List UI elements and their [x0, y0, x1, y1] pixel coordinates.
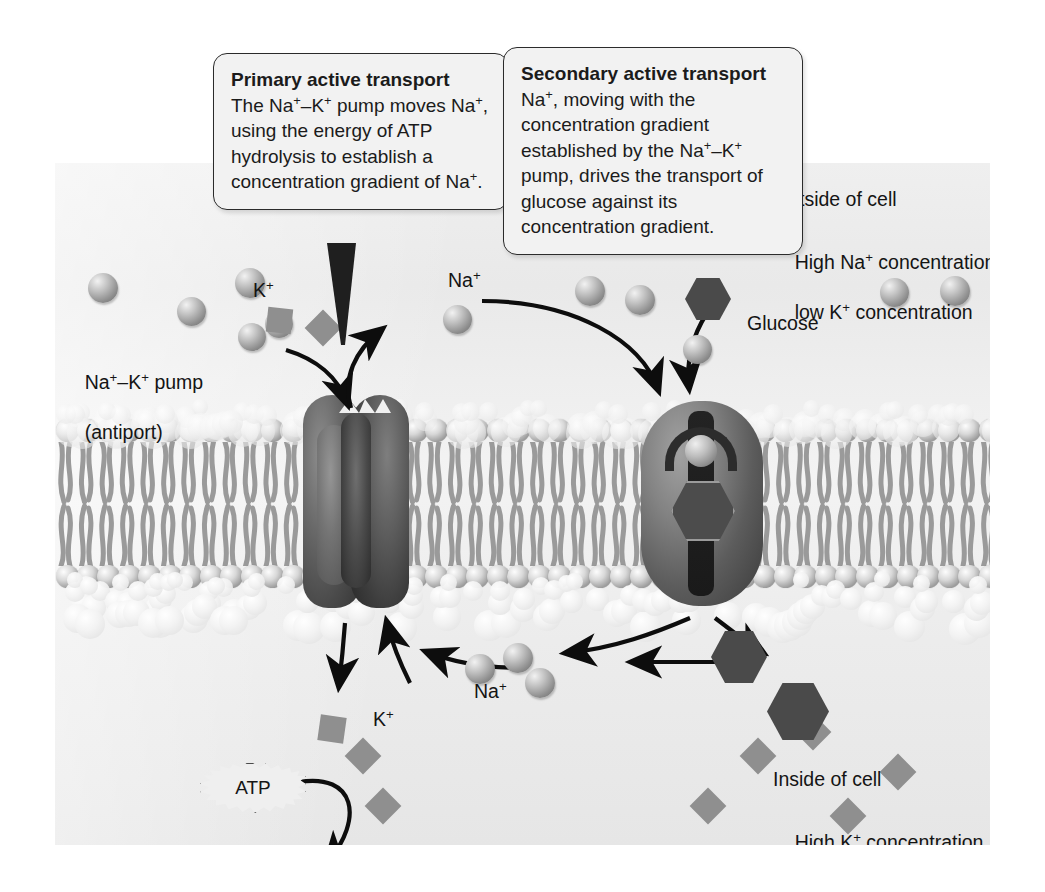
pump-name-line1: Na+–K+ pump: [85, 371, 204, 393]
potassium-ion: [345, 738, 382, 775]
sodium-ion: [625, 285, 655, 315]
bound-sodium-ion: [685, 435, 717, 467]
sodium-in-label: Na+: [474, 679, 507, 704]
potassium-ion: [266, 307, 293, 334]
sodium-ion: [503, 643, 533, 673]
outside-conc-line2: low K+ concentration: [795, 301, 973, 323]
diagram-panel: ATP ADP + Pi Outside of cell High Na+ co…: [55, 163, 990, 845]
potassium-ion: [880, 754, 917, 791]
potassium-ion: [365, 788, 402, 825]
sodium-ion: [683, 335, 712, 364]
glucose-label: Glucose: [747, 311, 819, 336]
pump-name-line2: (antiport): [85, 421, 163, 443]
potassium-ion: [317, 714, 346, 743]
potassium-in-label: K+: [373, 707, 394, 732]
sodium-ion: [443, 305, 472, 334]
sodium-ion: [88, 273, 118, 303]
potassium-ion: [740, 738, 777, 775]
inside-conc-line1: High K+ concentration,: [795, 831, 989, 845]
atp-badge: ATP: [200, 763, 306, 813]
callout-secondary-active-transport: Secondary active transport Na+, moving w…: [503, 47, 803, 255]
callout-primary-body: The Na+–K+ pump moves Na+, using the ene…: [231, 95, 488, 193]
cytosol-texture: [55, 571, 990, 623]
potassium-ion: [305, 310, 342, 347]
sodium-out-label: Na+: [448, 268, 481, 293]
pump-central-channel: [341, 413, 371, 588]
sodium-ion: [575, 276, 605, 306]
sodium-glucose-symporter-protein: [641, 401, 763, 606]
sodium-ion: [525, 668, 555, 698]
callout-primary-active-transport: Primary active transport The Na+–K+ pump…: [213, 53, 509, 210]
outside-conc-line1: High Na+ concentration,: [795, 251, 990, 273]
sodium-ion: [238, 323, 266, 351]
sodium-potassium-pump-protein: [303, 395, 409, 608]
callout-secondary-title: Secondary active transport: [521, 61, 787, 87]
pump-name-label: Na+–K+ pump (antiport): [63, 345, 203, 470]
arrow-atp-hydrolysis: [299, 781, 350, 845]
pump-binding-notch: [339, 393, 391, 413]
sodium-ion: [177, 297, 206, 326]
callout-primary-title: Primary active transport: [231, 67, 493, 93]
potassium-out-label: K+: [253, 278, 274, 303]
arrow-sodium-to-symporter: [482, 301, 658, 389]
callout-secondary-body: Na+, moving with the concentration gradi…: [521, 89, 763, 238]
glucose-molecule: [711, 631, 767, 683]
glucose-molecule: [685, 278, 731, 320]
potassium-ion: [690, 788, 727, 825]
inside-concentration-label: High K+ concentration, low Na+ concentra…: [773, 805, 989, 845]
atp-label: ATP: [235, 777, 271, 799]
inside-of-cell-label: Inside of cell: [773, 767, 881, 792]
bound-glucose-molecule: [671, 481, 735, 541]
